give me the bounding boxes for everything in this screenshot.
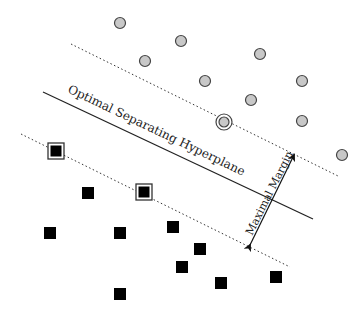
class-circle-point [176,36,187,47]
margin-label: Maximal Margin [243,149,296,237]
class-circle-point [246,95,257,106]
class-square-point [82,187,94,199]
diagram-svg: Optimal Separating Hyperplane Maximal Ma… [0,0,362,311]
svm-diagram: Optimal Separating Hyperplane Maximal Ma… [0,0,362,311]
class-square-point [44,227,56,239]
hyperplane-label: Optimal Separating Hyperplane [66,82,248,178]
class-circle-point [297,76,308,87]
class-square-point [194,243,206,255]
class-circle-point [337,150,348,161]
class-square-point [270,271,282,283]
class-circle-point [115,18,126,29]
class-square-point [114,227,126,239]
class-circle-point [140,56,151,67]
class-square-point [167,221,179,233]
class-circle-point [297,116,308,127]
support-vector-circle [219,117,229,127]
support-vector-square [139,187,150,198]
class-circle-point [255,49,266,60]
class-square-point [215,277,227,289]
class-square-point [176,261,188,273]
class-square-point [114,288,126,300]
support-vector-square [51,146,62,157]
class-circle-point [200,76,211,87]
